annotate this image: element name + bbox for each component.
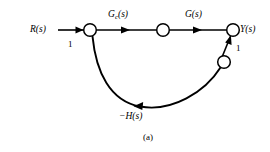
controller-arrowhead xyxy=(121,26,130,33)
controller-gain-base: G xyxy=(108,9,115,19)
input-signal-label: R(s) xyxy=(30,25,46,35)
signal-flow-graph-figure: R(s) 1 Gc(s) G(s) Y(s) 1 −H(s) (a) xyxy=(0,0,270,152)
plant-branch xyxy=(170,26,227,33)
plant-gain-label: G(s) xyxy=(185,10,202,20)
summing-node xyxy=(84,24,97,37)
input-branch xyxy=(58,27,84,34)
feedback-link-gain-label: 1 xyxy=(236,44,241,53)
output-node xyxy=(227,24,240,37)
signal-flow-graph-canvas xyxy=(0,0,270,152)
feedback-arc-branch xyxy=(93,36,221,110)
controller-branch xyxy=(97,26,157,33)
plant-arrowhead xyxy=(193,26,202,33)
controller-gain-arg: (s) xyxy=(118,9,128,19)
feedback-link-branch xyxy=(223,35,232,56)
feedback-link-arrowhead xyxy=(225,35,231,45)
input-arrowhead xyxy=(76,27,84,34)
figure-caption: (a) xyxy=(143,133,153,142)
controller-gain-label: Gc(s) xyxy=(108,10,128,21)
feedback-node xyxy=(218,56,231,69)
feedback-arc-arrowhead xyxy=(134,102,144,110)
feedback-gain-label: −H(s) xyxy=(119,112,142,122)
input-gain-label: 1 xyxy=(68,40,73,49)
output-signal-label: Y(s) xyxy=(240,25,255,35)
controller-output-node xyxy=(157,24,170,37)
